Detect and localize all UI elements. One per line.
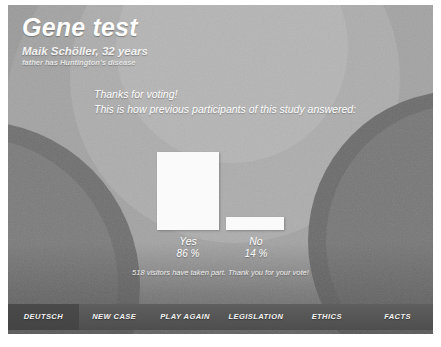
bar-value-yes: 86 % — [148, 248, 228, 261]
background-ring-core — [116, 5, 348, 163]
intro-line-2: This is how previous participants of thi… — [94, 102, 356, 117]
bar-value-no: 14 % — [216, 248, 296, 261]
bar-yes — [157, 152, 219, 230]
nav-button-legislation[interactable]: LEGISLATION — [220, 304, 291, 330]
bar-category-yes: Yes — [179, 235, 197, 247]
nav-button-ethics[interactable]: ETHICS — [291, 304, 362, 330]
intro-message: Thanks for voting! This is how previous … — [94, 87, 356, 117]
bar-no — [226, 217, 284, 230]
patient-name: Maik Schöller, 32 years — [22, 45, 148, 57]
bar-category-no: No — [249, 235, 262, 247]
nav-button-facts[interactable]: FACTS — [362, 304, 433, 330]
intro-line-1: Thanks for voting! — [94, 87, 356, 102]
nav-button-new-case[interactable]: NEW CASE — [79, 304, 150, 330]
background-arc-right-inner — [326, 105, 433, 334]
header: Gene test Maik Schöller, 32 years father… — [22, 14, 148, 67]
patient-condition: father has Huntington's disease — [22, 58, 148, 67]
nav-button-deutsch[interactable]: DEUTSCH — [8, 304, 79, 330]
nav-button-play-again[interactable]: PLAY AGAIN — [150, 304, 221, 330]
bottom-navigation-bar: DEUTSCH NEW CASE PLAY AGAIN LEGISLATION … — [8, 304, 433, 330]
background-arc-left — [8, 121, 140, 334]
visitor-count-note: 518 visitors have taken part. Thank you … — [8, 268, 433, 277]
page-title: Gene test — [22, 14, 148, 40]
gene-test-application-window: Gene test Maik Schöller, 32 years father… — [8, 5, 433, 334]
background-arc-right — [308, 91, 433, 334]
bar-label-yes: Yes 86 % — [148, 235, 228, 261]
bar-label-no: No 14 % — [216, 235, 296, 261]
